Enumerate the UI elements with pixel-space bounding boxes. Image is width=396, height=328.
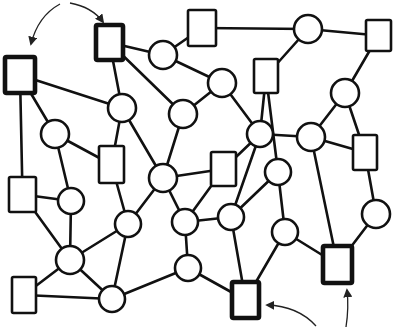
circle-node-C11 xyxy=(265,159,291,185)
circle-node-C9 xyxy=(297,123,325,151)
curved-arrow-icon xyxy=(70,3,103,22)
square-node-S4 xyxy=(366,20,391,51)
circle-node-C1 xyxy=(149,41,177,69)
circle-node-C2 xyxy=(294,15,322,43)
square-node-S7 xyxy=(211,152,236,186)
circle-node-C18 xyxy=(56,246,84,274)
square-node-S3 xyxy=(188,10,216,46)
circle-node-C8 xyxy=(247,121,273,147)
circle-node-C12 xyxy=(58,188,84,214)
highlighted-square-node-S11 xyxy=(232,282,259,318)
edge-S3-C2 xyxy=(202,28,308,29)
curved-arrow-icon xyxy=(31,4,60,44)
curved-arrow-icon xyxy=(346,290,348,327)
circle-node-C13 xyxy=(115,211,141,237)
network-diagram: Hand-drawn network graph with highlighte… xyxy=(0,0,396,328)
circle-node-C4 xyxy=(208,69,236,97)
highlighted-square-node-S2 xyxy=(96,25,123,60)
highlighted-square-node-S12 xyxy=(323,246,352,283)
circle-node-C15 xyxy=(218,204,244,230)
curved-arrow-icon xyxy=(267,305,316,326)
square-node-S6 xyxy=(99,146,124,183)
circle-node-C6 xyxy=(41,120,69,148)
circle-node-C16 xyxy=(362,200,390,228)
circle-node-C20 xyxy=(99,286,125,312)
square-node-S9 xyxy=(9,177,36,212)
circle-node-C3 xyxy=(108,94,136,122)
circle-node-C5 xyxy=(169,100,197,128)
square-node-S10 xyxy=(12,277,36,313)
square-node-S5 xyxy=(254,59,278,93)
circle-node-C17 xyxy=(272,219,298,245)
network-graph-svg xyxy=(0,0,396,328)
circle-node-C7 xyxy=(331,79,359,107)
circle-node-C19 xyxy=(175,255,201,281)
square-node-S8 xyxy=(353,135,377,170)
circle-node-C14 xyxy=(172,209,198,235)
circle-node-C10 xyxy=(149,164,177,192)
highlighted-square-node-S1 xyxy=(5,57,35,93)
